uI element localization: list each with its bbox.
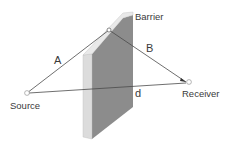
diffraction-point-icon xyxy=(107,28,111,32)
source-label: Source xyxy=(10,101,40,111)
barrier-side-edge xyxy=(83,54,92,139)
arrowhead-icon xyxy=(180,78,186,82)
receiver-label: Receiver xyxy=(182,89,220,99)
path-a-label: A xyxy=(54,55,61,66)
barrier-face xyxy=(92,15,133,139)
direct-path-label: d xyxy=(135,88,141,99)
receiver-point-icon xyxy=(187,80,192,85)
barrier-diagram xyxy=(0,0,231,147)
source-point-icon xyxy=(25,91,30,96)
barrier-label: Barrier xyxy=(135,12,164,22)
path-b-label: B xyxy=(146,43,153,54)
